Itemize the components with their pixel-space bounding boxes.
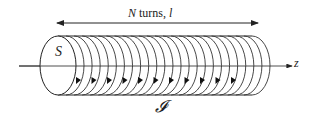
area-label: S: [55, 44, 62, 60]
solenoid-diagram: N turns, l S z 𝓘: [0, 0, 312, 119]
axis-label: z: [294, 56, 299, 71]
current-label: 𝓘: [155, 96, 166, 116]
length-label: N turns, l: [128, 6, 172, 21]
coil-turns: [66, 36, 270, 95]
